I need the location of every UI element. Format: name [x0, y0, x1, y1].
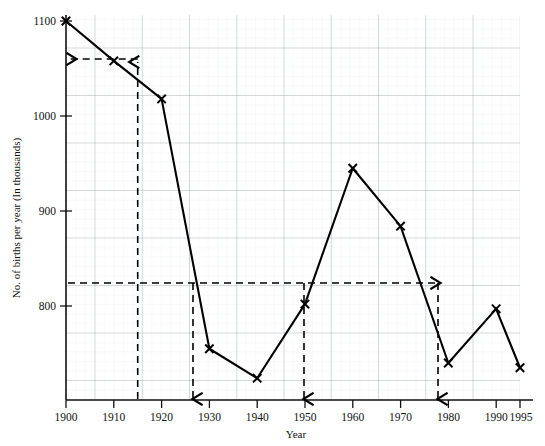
x-tick-label-1960: 1960	[341, 411, 364, 423]
x-tick-label-1930: 1930	[198, 411, 221, 423]
x-tick-label-1990: 1990	[485, 411, 508, 423]
x-tick-label-1920: 1920	[150, 411, 173, 423]
x-tick-label-1900: 1900	[55, 411, 78, 423]
grid-lines	[66, 15, 520, 400]
y-tick-label-1000: 1000	[33, 110, 56, 122]
x-tick-label-1980: 1980	[437, 411, 460, 423]
y-axis-title: No. of births per year (In thousands)	[10, 137, 23, 298]
births-per-year-line-chart: 1100 1000 900 800 1900 1910 1920 1930 19…	[0, 0, 545, 446]
y-tick-label-900: 900	[39, 205, 57, 217]
x-tick-label-1995: 1995	[510, 411, 533, 423]
x-tick-label-1910: 1910	[102, 411, 125, 423]
x-axis-title: Year	[286, 428, 307, 440]
y-tick-label-1100: 1100	[33, 15, 56, 27]
y-tick-label-800: 800	[39, 300, 57, 312]
x-axis-ticks	[66, 400, 520, 408]
x-tick-label-1950: 1950	[294, 411, 317, 423]
x-tick-label-1940: 1940	[246, 411, 269, 423]
x-tick-label-1970: 1970	[389, 411, 412, 423]
